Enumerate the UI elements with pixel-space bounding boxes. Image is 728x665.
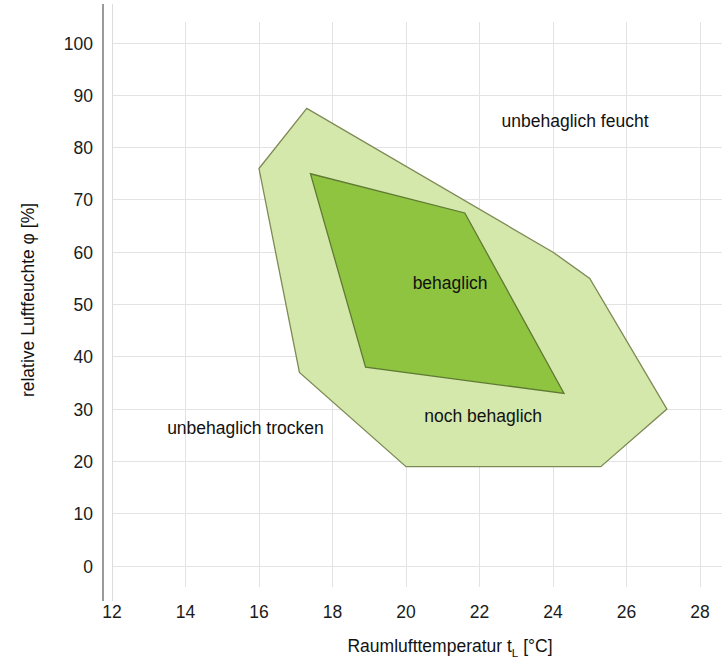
- x-tick-label: 26: [617, 602, 636, 622]
- y-tick-label: 40: [74, 347, 94, 367]
- y-tick-label: 60: [74, 243, 94, 263]
- y-tick-label: 30: [74, 400, 94, 420]
- x-axis-title-main: Raumlufttemperatur t: [347, 636, 512, 656]
- x-tick-label: 12: [102, 602, 121, 622]
- zone-annotation-label: noch behaglich: [424, 406, 542, 426]
- x-tick-label: 24: [543, 602, 563, 622]
- zone-annotation-label: unbehaglich trocken: [167, 418, 324, 438]
- chart-canvas: 0102030405060708090100121416182022242628…: [0, 0, 728, 665]
- y-tick-label: 50: [74, 295, 94, 315]
- x-tick-label: 22: [470, 602, 489, 622]
- y-tick-label: 20: [74, 452, 94, 472]
- x-tick-label: 20: [396, 602, 416, 622]
- y-tick-label: 70: [74, 190, 94, 210]
- zone-annotation-label: unbehaglich feucht: [502, 111, 649, 131]
- y-tick-label: 100: [64, 34, 93, 54]
- y-tick-label: 0: [83, 557, 93, 577]
- y-tick-label: 10: [74, 504, 94, 524]
- y-tick-label: 80: [74, 138, 94, 158]
- zone-annotation-label: behaglich: [413, 273, 488, 293]
- x-axis-title: Raumlufttemperatur tL [°C]: [347, 636, 552, 659]
- comfort-zone-chart: 0102030405060708090100121416182022242628…: [0, 0, 728, 665]
- x-tick-label: 16: [249, 602, 268, 622]
- y-axis-title: relative Luftfeuchte φ [%]: [18, 203, 38, 397]
- axes: [103, 4, 112, 601]
- x-tick-label: 14: [176, 602, 196, 622]
- x-axis-title-unit: [°C]: [518, 636, 552, 656]
- x-tick-label: 18: [323, 602, 342, 622]
- y-tick-label: 90: [74, 86, 94, 106]
- x-tick-label: 28: [690, 602, 709, 622]
